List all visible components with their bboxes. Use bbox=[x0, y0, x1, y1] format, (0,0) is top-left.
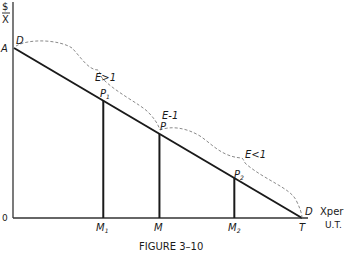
x-axis-label-line1: Xper bbox=[320, 206, 344, 217]
y-axis-label-dollar: $ bbox=[2, 1, 8, 12]
elasticity-label-greater: E>1 bbox=[95, 72, 116, 83]
point-label-p2: P2 bbox=[234, 169, 244, 181]
elasticity-label-unit: E-1 bbox=[162, 110, 178, 121]
quantity-label-m2: M2 bbox=[228, 222, 241, 234]
demand-line bbox=[14, 48, 302, 218]
demand-label-start: D bbox=[16, 35, 24, 46]
quantity-label-m1: M1 bbox=[96, 222, 108, 234]
end-label-t: T bbox=[299, 222, 306, 233]
origin-label: 0 bbox=[2, 213, 8, 223]
quantity-label-m: M bbox=[154, 222, 163, 233]
demand-label-end: D bbox=[305, 206, 313, 217]
intercept-label-a: A bbox=[0, 43, 8, 54]
y-axis-label-x: X bbox=[2, 14, 9, 25]
elasticity-diagram: $ X A D D E>1 E-1 E<1 P1 P P2 M1 M M2 0 … bbox=[0, 0, 355, 253]
figure-caption: FIGURE 3–10 bbox=[139, 241, 203, 252]
point-label-p: P bbox=[160, 121, 167, 132]
elasticity-label-less: E<1 bbox=[245, 149, 266, 160]
x-axis-label-line2: U.T. bbox=[325, 220, 342, 230]
point-label-p1: P1 bbox=[100, 88, 110, 100]
elastic-brace bbox=[16, 41, 160, 130]
